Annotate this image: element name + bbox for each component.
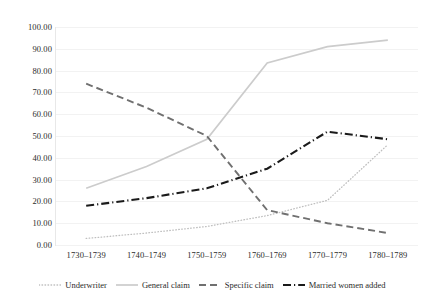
x-tick-label: 1780–1789 bbox=[358, 251, 418, 265]
legend-item[interactable]: Underwriter bbox=[39, 281, 107, 290]
y-tick-label: 100.00 bbox=[2, 23, 52, 32]
legend-swatch-icon bbox=[116, 281, 138, 289]
y-tick-label: 80.00 bbox=[2, 67, 52, 76]
legend-swatch-icon bbox=[283, 281, 305, 289]
y-tick-label: 30.00 bbox=[2, 176, 52, 185]
legend-label: General claim bbox=[142, 281, 190, 290]
series-lines bbox=[56, 27, 418, 245]
chart-legend: UnderwriterGeneral claimSpecific claimMa… bbox=[0, 281, 425, 290]
legend-swatch-icon bbox=[199, 281, 221, 289]
x-tick-label: 1730–1739 bbox=[56, 251, 116, 265]
y-tick-label: 90.00 bbox=[2, 45, 52, 54]
x-tick-label: 1770–1779 bbox=[297, 251, 357, 265]
legend-item[interactable]: Married women added bbox=[283, 281, 386, 290]
plot-area bbox=[56, 27, 418, 245]
series-line bbox=[86, 145, 388, 239]
y-tick-label: 10.00 bbox=[2, 219, 52, 228]
legend-label: Married women added bbox=[309, 281, 386, 290]
y-tick-label: 50.00 bbox=[2, 132, 52, 141]
gridline bbox=[56, 245, 418, 246]
line-chart: 100.0090.0080.0070.0060.0050.0040.0030.0… bbox=[0, 0, 425, 305]
y-tick-label: 60.00 bbox=[2, 110, 52, 119]
legend-item[interactable]: Specific claim bbox=[199, 281, 274, 290]
y-axis-labels: 100.0090.0080.0070.0060.0050.0040.0030.0… bbox=[0, 27, 52, 245]
x-tick-label: 1760–1769 bbox=[237, 251, 297, 265]
legend-label: Underwriter bbox=[65, 281, 107, 290]
x-axis-labels: 1730–17391740–17491750–17591760–17691770… bbox=[56, 251, 418, 265]
x-tick-label: 1750–1759 bbox=[177, 251, 237, 265]
series-line bbox=[86, 40, 388, 188]
series-line bbox=[86, 132, 388, 206]
series-line bbox=[86, 84, 388, 233]
y-tick-label: 70.00 bbox=[2, 88, 52, 97]
legend-swatch-icon bbox=[39, 281, 61, 289]
legend-item[interactable]: General claim bbox=[116, 281, 190, 290]
x-tick-label: 1740–1749 bbox=[116, 251, 176, 265]
y-tick-label: 20.00 bbox=[2, 197, 52, 206]
legend-label: Specific claim bbox=[225, 281, 274, 290]
y-tick-label: 0.00 bbox=[2, 241, 52, 250]
y-tick-label: 40.00 bbox=[2, 154, 52, 163]
